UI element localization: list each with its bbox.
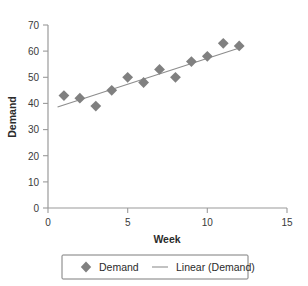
x-tick-label: 0 bbox=[45, 217, 51, 228]
y-tick-label: 50 bbox=[28, 72, 40, 83]
chart-container: 70 60 50 40 30 20 10 0 0 5 10 15 Week De… bbox=[0, 0, 308, 286]
x-axis-title: Week bbox=[153, 233, 180, 245]
chart-legend: Demand Linear (Demand) bbox=[62, 255, 255, 279]
data-point-marker bbox=[90, 101, 101, 112]
data-point-marker bbox=[106, 85, 117, 96]
data-point-marker bbox=[170, 72, 181, 83]
y-tick-label: 60 bbox=[28, 46, 40, 57]
y-tick-label: 70 bbox=[28, 20, 40, 31]
y-axis-title: Demand bbox=[6, 96, 18, 137]
legend-label-demand: Demand bbox=[99, 261, 139, 273]
y-tick-label: 20 bbox=[28, 151, 40, 162]
y-axis-tick-labels: 70 60 50 40 30 20 10 0 bbox=[28, 20, 40, 214]
data-point-marker bbox=[59, 90, 70, 101]
data-point-marker bbox=[218, 38, 229, 49]
legend-label-linear-demand: Linear (Demand) bbox=[176, 261, 255, 273]
x-tick-label: 10 bbox=[202, 217, 214, 228]
x-tick-label: 5 bbox=[125, 217, 131, 228]
data-point-marker bbox=[186, 56, 197, 67]
y-axis-ticks bbox=[43, 25, 48, 208]
x-axis-ticks bbox=[48, 208, 287, 213]
x-tick-label: 15 bbox=[281, 217, 293, 228]
data-point-marker bbox=[138, 77, 149, 88]
linear-trendline bbox=[58, 47, 243, 107]
y-tick-label: 0 bbox=[33, 203, 39, 214]
y-tick-label: 10 bbox=[28, 177, 40, 188]
demand-vs-week-scatter-chart: 70 60 50 40 30 20 10 0 0 5 10 15 Week De… bbox=[0, 0, 308, 286]
demand-data-points bbox=[59, 38, 245, 112]
data-point-marker bbox=[122, 72, 133, 83]
y-tick-label: 40 bbox=[28, 98, 40, 109]
y-tick-label: 30 bbox=[28, 124, 40, 135]
x-axis-tick-labels: 0 5 10 15 bbox=[45, 217, 293, 228]
data-point-marker bbox=[74, 93, 85, 104]
